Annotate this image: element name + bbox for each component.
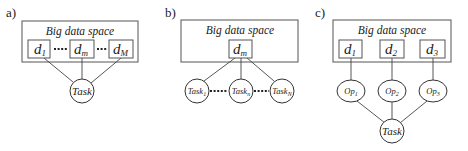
- diagram-canvas: a) Big data space d1 dm dM Task b): [0, 0, 468, 151]
- data-item-dM: dM: [109, 40, 133, 58]
- data-item-d1: d1: [339, 40, 362, 58]
- big-data-space-title: Big data space: [46, 25, 114, 38]
- task-node: Task: [380, 119, 404, 143]
- panel-a-label: a): [6, 5, 16, 20]
- edge-op1-task: [357, 101, 385, 123]
- task-node-1: Task1: [185, 79, 209, 103]
- big-data-space-title: Big data space: [206, 24, 274, 37]
- svg-text:Task: Task: [382, 125, 403, 137]
- op-node-2: Op2: [378, 80, 406, 102]
- task-node-N: TaskN: [270, 79, 294, 103]
- svg-text:Task: Task: [72, 85, 93, 97]
- panel-b: b) Big data space dm Task1 Taskn TaskN: [165, 5, 298, 103]
- data-item-dm: dm: [70, 40, 94, 58]
- panel-c-label: c): [315, 5, 325, 20]
- data-item-d1: d1: [28, 40, 50, 58]
- op-node-3: Op3: [419, 80, 447, 102]
- panel-b-label: b): [165, 5, 176, 20]
- panel-c: c) Big data space d1 d2 d3 Op1 Op2: [315, 5, 451, 143]
- edge-op3-task: [400, 101, 427, 123]
- data-item-d2: d2: [380, 40, 404, 58]
- panel-a: a) Big data space d1 dm dM Task: [6, 5, 138, 103]
- big-data-space-title: Big data space: [358, 24, 426, 37]
- op-node-1: Op1: [337, 80, 365, 102]
- task-node: Task: [70, 79, 94, 103]
- data-item-dm: dm: [229, 40, 252, 58]
- data-item-d3: d3: [420, 40, 445, 58]
- task-node-n: Taskn: [229, 79, 253, 103]
